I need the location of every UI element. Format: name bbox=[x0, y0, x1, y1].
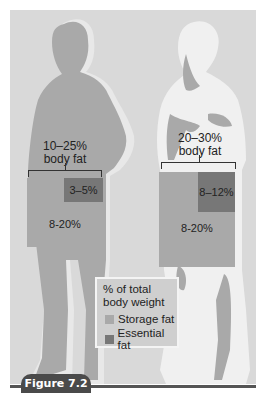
male-bracket-right bbox=[101, 170, 102, 177]
essential-fat-swatch-icon bbox=[105, 335, 114, 344]
female-bracket-right bbox=[235, 162, 236, 169]
legend: % of total body weight Storage fat Essen… bbox=[95, 277, 179, 348]
female-bracket bbox=[161, 162, 236, 163]
female-bracket-tick bbox=[199, 155, 200, 162]
female-storage-value: 8-20% bbox=[159, 222, 235, 234]
legend-item-label: Essential fat bbox=[118, 327, 177, 351]
legend-item-label: Storage fat bbox=[118, 313, 174, 325]
female-bracket-left bbox=[161, 162, 162, 169]
legend-title-line1: % of total bbox=[103, 283, 164, 296]
legend-item-essential-fat: Essential fat bbox=[105, 327, 177, 351]
female-range-line2: body fat bbox=[165, 145, 235, 158]
male-bracket-tick bbox=[65, 163, 66, 170]
figure-panel: 10–25% body fat 3–5% 8-20% 20–30% body f… bbox=[10, 10, 256, 384]
legend-item-storage-fat: Storage fat bbox=[105, 313, 174, 325]
storage-fat-swatch-icon bbox=[105, 315, 114, 324]
male-storage-value: 8-20% bbox=[27, 218, 103, 230]
male-essential-value: 3–5% bbox=[64, 184, 103, 196]
male-bracket-left bbox=[28, 170, 29, 177]
female-essential-value: 8–12% bbox=[198, 186, 235, 198]
female-body-fat-range-label: 20–30% body fat bbox=[165, 132, 235, 158]
male-bracket bbox=[28, 170, 102, 171]
legend-title-line2: body weight bbox=[103, 296, 164, 309]
legend-title: % of total body weight bbox=[103, 283, 164, 309]
figure-label-tab: Figure 7.2 bbox=[21, 374, 91, 393]
